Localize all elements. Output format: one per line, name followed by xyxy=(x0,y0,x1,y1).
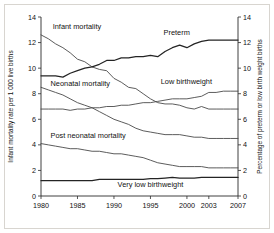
right-axis-tick-label: 10 xyxy=(243,64,251,73)
series-annotation-label: Post neonatal mortality xyxy=(50,131,125,140)
x-axis-tick-label: 2007 xyxy=(230,201,246,210)
right-axis-tick-label: 8 xyxy=(243,89,247,98)
left-axis-tick-label: 12 xyxy=(28,38,36,47)
x-axis-tick-label: 1985 xyxy=(69,201,85,210)
right-axis-tick-label: 6 xyxy=(243,115,247,124)
x-axis-tick-label: 1995 xyxy=(142,201,158,210)
series-annotation-label: Preterm xyxy=(164,28,190,37)
left-axis-tick-label: 4 xyxy=(32,140,36,149)
right-axis-title: Percentage of preterm or low birth weigh… xyxy=(256,39,264,173)
right-axis-tick-label: 4 xyxy=(243,140,247,149)
left-axis-tick-label: 14 xyxy=(28,13,36,22)
x-axis-tick-label: 2000 xyxy=(179,201,195,210)
left-axis-tick-label: 10 xyxy=(28,64,36,73)
series-line-infant-mortality xyxy=(41,35,238,109)
series-line-low-birthweight xyxy=(41,91,238,110)
line-chart: 0246810121402468101214198019851990199520… xyxy=(0,0,274,233)
series-line-preterm xyxy=(41,40,238,77)
x-axis-tick-label: 2003 xyxy=(201,201,217,210)
left-axis-title: Infant mortality rate per 1 000 live bir… xyxy=(7,50,15,162)
series-annotation-label: Neonatal mortality xyxy=(50,79,110,88)
right-axis-tick-label: 12 xyxy=(243,38,251,47)
series-annotation-label: Very low birthweight xyxy=(118,180,184,189)
series-annotation-label: Infant mortality xyxy=(53,22,102,31)
x-axis-tick-label: 1990 xyxy=(106,201,122,210)
x-axis-tick-label: 1980 xyxy=(33,201,49,210)
left-axis-tick-label: 6 xyxy=(32,115,36,124)
left-axis-tick-label: 8 xyxy=(32,89,36,98)
series-line-post-neonatal-mortality xyxy=(41,144,238,168)
right-axis-tick-label: 0 xyxy=(243,192,247,201)
series-annotation-label: Low birthweight xyxy=(161,77,212,86)
right-axis-tick-label: 2 xyxy=(243,166,247,175)
series-layer xyxy=(41,35,238,181)
right-axis-tick-label: 14 xyxy=(243,13,251,22)
left-axis-tick-label: 0 xyxy=(32,192,36,201)
left-axis-tick-label: 2 xyxy=(32,166,36,175)
axis-titles-layer: Infant mortality rate per 1 000 live bir… xyxy=(7,39,264,173)
chart-container: 0246810121402468101214198019851990199520… xyxy=(0,0,274,233)
